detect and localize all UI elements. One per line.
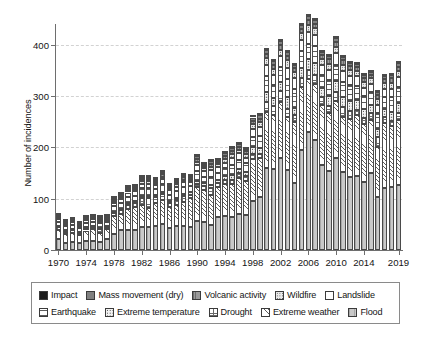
bar-segment-flood-1974 bbox=[83, 241, 89, 250]
y-tick-label-300: 300 bbox=[33, 90, 49, 101]
bar-segment-landslide-2000 bbox=[264, 65, 270, 76]
legend-item-extremeweather[interactable]: Extreme weather bbox=[261, 307, 340, 317]
bar-segment-impact-2001 bbox=[271, 59, 277, 61]
bar-segment-wildfire-1994 bbox=[222, 159, 228, 163]
bar-segment-landslide-1990 bbox=[194, 165, 200, 171]
bar-segment-wildfire-1999 bbox=[257, 122, 263, 127]
bar-segment-drought-1986 bbox=[167, 203, 173, 208]
bar-segment-impact-1986 bbox=[167, 183, 173, 185]
bar-segment-mass_movement_dry-2007 bbox=[312, 20, 318, 24]
bar-segment-impact-1988 bbox=[181, 173, 187, 175]
bar-segment-volcanic_activity-2013 bbox=[354, 67, 360, 71]
bar-segment-landslide-1981 bbox=[132, 191, 138, 195]
bar-segment-extreme_weather-2015 bbox=[368, 120, 374, 174]
bar-segment-volcanic_activity-2003 bbox=[285, 56, 291, 61]
x-tick-mark-2002 bbox=[281, 251, 282, 255]
bar-segment-impact-1997 bbox=[243, 147, 249, 149]
bar-segment-flood-1986 bbox=[167, 228, 173, 250]
bar-segment-landslide-2004 bbox=[292, 78, 298, 88]
bar-1994 bbox=[222, 152, 228, 250]
x-tick-label-2010: 2010 bbox=[325, 257, 346, 268]
bar-segment-wildfire-1988 bbox=[181, 180, 187, 183]
bar-segment-extreme_weather-2009 bbox=[326, 113, 332, 171]
bar-segment-wildfire-2019 bbox=[396, 71, 402, 78]
legend-item-volcanic[interactable]: Volcanic activity bbox=[192, 290, 266, 300]
bar-segment-landslide-2005 bbox=[299, 40, 305, 51]
bar-segment-flood-2003 bbox=[285, 170, 291, 250]
bar-segment-extreme_weather-2008 bbox=[319, 105, 325, 166]
bar-segment-extreme_weather-1986 bbox=[167, 207, 173, 228]
y-tick-label-400: 400 bbox=[33, 39, 49, 50]
bar-segment-extreme_temperature-2005 bbox=[299, 68, 305, 78]
gridline-400 bbox=[56, 45, 402, 47]
x-tick-label-1990: 1990 bbox=[187, 257, 208, 268]
bar-segment-extreme_temperature-2000 bbox=[264, 92, 270, 102]
bar-segment-mass_movement_dry-1985 bbox=[160, 172, 166, 174]
bar-segment-mass_movement_dry-1988 bbox=[181, 175, 187, 177]
bar-segment-extreme_weather-1981 bbox=[132, 207, 138, 230]
bar-segment-drought-1979 bbox=[118, 210, 124, 213]
bar-segment-flood-2015 bbox=[368, 173, 374, 250]
bar-segment-mass_movement_dry-1991 bbox=[201, 164, 207, 166]
bar-segment-landslide-1974 bbox=[83, 220, 89, 223]
bar-segment-mass_movement_dry-2013 bbox=[354, 64, 360, 67]
x-tick-label-1970: 1970 bbox=[48, 257, 69, 268]
bar-segment-landslide-2017 bbox=[382, 89, 388, 97]
bar-segment-earthquake-1995 bbox=[229, 165, 235, 175]
bar-segment-landslide-2006 bbox=[306, 32, 312, 44]
bar-segment-extreme_weather-1974 bbox=[83, 231, 89, 241]
bar-segment-earthquake-1976 bbox=[97, 223, 103, 228]
bar-segment-flood-2010 bbox=[333, 158, 339, 250]
bar-segment-volcanic_activity-1998 bbox=[250, 121, 256, 125]
legend-item-impact[interactable]: Impact bbox=[39, 290, 77, 300]
x-tick-mark-2019 bbox=[399, 251, 400, 255]
x-tick-label-1994: 1994 bbox=[214, 257, 235, 268]
bar-segment-mass_movement_dry-2010 bbox=[333, 38, 339, 42]
bar-segment-flood-2011 bbox=[340, 172, 346, 250]
legend-item-earthquake[interactable]: Earthquake bbox=[39, 307, 96, 317]
bar-2002 bbox=[278, 39, 284, 250]
bar-segment-landslide-2016 bbox=[375, 105, 381, 114]
bar-segment-volcanic_activity-1979 bbox=[118, 196, 124, 198]
bar-2013 bbox=[354, 62, 360, 250]
bar-segment-volcanic_activity-1984 bbox=[153, 181, 159, 183]
bar-segment-earthquake-1980 bbox=[125, 197, 131, 204]
bar-segment-drought-1995 bbox=[229, 180, 235, 185]
bar-segment-impact-2003 bbox=[285, 50, 291, 52]
x-tick-label-1986: 1986 bbox=[159, 257, 180, 268]
bar-segment-extreme_temperature-1993 bbox=[215, 180, 221, 183]
legend-swatch-impact-icon bbox=[39, 291, 48, 300]
x-tick-mark-2010 bbox=[336, 251, 337, 255]
bar-segment-drought-1991 bbox=[201, 186, 207, 190]
bar-segment-impact-1975 bbox=[90, 214, 96, 216]
bar-segment-extreme_weather-2006 bbox=[306, 79, 312, 132]
bar-1988 bbox=[181, 174, 187, 250]
bar-segment-flood-2001 bbox=[271, 169, 277, 250]
bar-segment-flood-1994 bbox=[222, 216, 228, 250]
bar-segment-extreme_temperature-2004 bbox=[292, 108, 298, 116]
bar-segment-extreme_weather-2003 bbox=[285, 117, 291, 170]
bar-segment-volcanic_activity-1987 bbox=[174, 182, 180, 185]
bar-segment-wildfire-1992 bbox=[208, 167, 214, 171]
bar-1974 bbox=[83, 216, 89, 250]
bar-segment-wildfire-2015 bbox=[368, 78, 374, 83]
legend-item-massmovement[interactable]: Mass movement (dry) bbox=[86, 290, 183, 300]
bar-segment-landslide-1972 bbox=[70, 222, 76, 225]
bar-segment-extreme_weather-2016 bbox=[375, 147, 381, 197]
bar-segment-flood-1997 bbox=[243, 215, 249, 250]
legend-item-extremetemp[interactable]: Extreme temperature bbox=[105, 307, 200, 317]
bar-segment-landslide-1999 bbox=[257, 127, 263, 136]
bar-1998 bbox=[250, 116, 256, 250]
bar-segment-extreme_temperature-1998 bbox=[250, 147, 256, 154]
bar-segment-earthquake-2017 bbox=[382, 97, 388, 109]
bar-segment-flood-1980 bbox=[125, 230, 131, 250]
bar-segment-wildfire-2004 bbox=[292, 72, 298, 78]
bar-segment-extreme_weather-1972 bbox=[70, 233, 76, 242]
legend-item-flood[interactable]: Flood bbox=[348, 307, 382, 317]
bar-1984 bbox=[153, 178, 159, 250]
bar-segment-extreme_temperature-2015 bbox=[368, 105, 374, 113]
legend-item-landslide[interactable]: Landslide bbox=[325, 290, 375, 300]
legend-item-wildfire[interactable]: Wildfire bbox=[275, 290, 316, 300]
bar-segment-earthquake-2013 bbox=[354, 86, 360, 100]
legend-item-drought[interactable]: Drought bbox=[209, 307, 252, 317]
